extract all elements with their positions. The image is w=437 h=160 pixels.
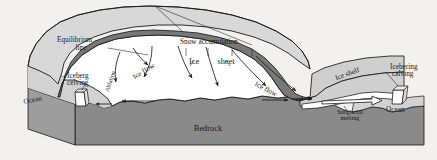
label-ice-sheet-word2: sheet	[217, 57, 235, 66]
iceberg-calving-block-left	[75, 89, 89, 106]
label-equilibrium-line-2: line	[76, 43, 87, 52]
label-snow-accumulation: Snow accumulation	[180, 37, 238, 46]
label-ice-sheet-word1: Ice	[189, 57, 200, 66]
label-iceberg-calving-right-2: calving	[392, 69, 414, 78]
label-iceberg-calving-left-2: celving	[67, 78, 89, 87]
label-ocean-right: Ocean	[386, 105, 405, 114]
label-bedrock: Bedrock	[194, 124, 223, 133]
ice-sheet-diagram: Equilibrium line Snow accumulation Ice s…	[0, 0, 437, 160]
label-subglacial-melting-2: melting	[341, 114, 360, 121]
